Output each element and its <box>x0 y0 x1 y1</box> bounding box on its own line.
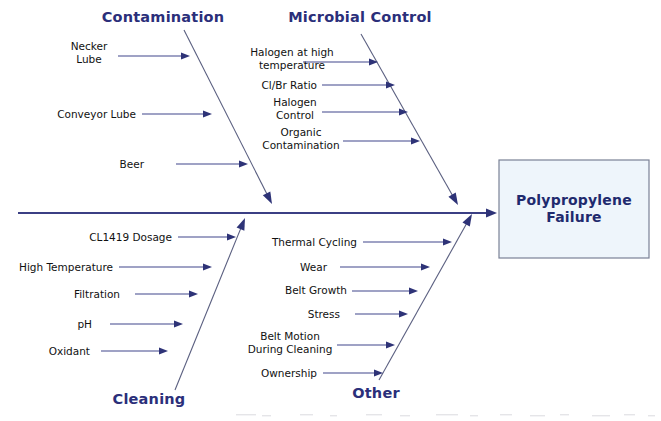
cause-label-line: Filtration <box>74 288 120 300</box>
cause-label-line: pH <box>77 318 92 330</box>
cause-label: High Temperature <box>19 261 113 273</box>
scan-artifact <box>236 414 256 415</box>
scan-artifact <box>500 414 512 415</box>
category-label-other: Other <box>352 385 400 401</box>
cause-label: Stress <box>308 308 340 320</box>
cause-label: Oxidant <box>49 345 90 357</box>
cause-label-line: Belt Motion <box>260 330 320 342</box>
cause-label-line: Ownership <box>261 367 317 379</box>
cause-label-line: Wear <box>300 261 328 273</box>
scan-artifact <box>648 415 655 416</box>
cause-label: Thermal Cycling <box>271 236 357 248</box>
scan-artifact <box>400 415 410 416</box>
cause-label: Halogen at hightemperature <box>250 46 334 71</box>
cause-label-line: Cl/Br Ratio <box>261 79 317 91</box>
cause-label-line: Conveyor Lube <box>57 108 136 120</box>
cause-label-line: Oxidant <box>49 345 90 357</box>
scan-artifact <box>530 415 545 416</box>
scan-artifact <box>592 415 610 416</box>
scan-artifact <box>300 414 313 415</box>
scan-artifact <box>330 415 337 416</box>
effect-label-line: Failure <box>546 209 602 225</box>
cause-label: Cl/Br Ratio <box>261 79 317 91</box>
scan-artifact <box>436 414 458 415</box>
fishbone-diagram: NeckerLubeConveyor LubeBeerHalogen at hi… <box>0 0 661 421</box>
cause-label-line: Contamination <box>262 139 339 151</box>
effect-label-line: Polypropylene <box>516 192 632 208</box>
category-label-contamination: Contamination <box>102 9 225 25</box>
cause-label-line: Necker <box>71 40 108 52</box>
cause-label: Conveyor Lube <box>57 108 136 120</box>
cause-label-line: Control <box>276 109 314 121</box>
cause-label-line: Lube <box>76 53 101 65</box>
cause-label: pH <box>77 318 92 330</box>
category-label-microbial-control: Microbial Control <box>288 9 432 25</box>
scan-artifact <box>262 415 271 416</box>
scan-artifact <box>366 414 382 415</box>
scan-artifact <box>624 414 635 415</box>
scan-artifact <box>470 415 478 416</box>
category-label-cleaning: Cleaning <box>113 391 186 407</box>
cause-label: Belt Growth <box>285 284 347 296</box>
cause-label-line: Halogen <box>273 96 316 108</box>
cause-label: Filtration <box>74 288 120 300</box>
cause-label: CL1419 Dosage <box>89 231 172 243</box>
fishbone-canvas: NeckerLubeConveyor LubeBeerHalogen at hi… <box>0 0 661 421</box>
cause-label-line: Halogen at high <box>250 46 334 58</box>
cause-label-line: CL1419 Dosage <box>89 231 172 243</box>
cause-label: Beer <box>120 158 145 170</box>
cause-label-line: High Temperature <box>19 261 113 273</box>
effect-box-layer: PolypropyleneFailure <box>499 160 649 258</box>
cause-label: Wear <box>300 261 328 273</box>
cause-label: HalogenControl <box>273 96 316 121</box>
cause-label-line: temperature <box>259 59 325 71</box>
cause-label-line: Thermal Cycling <box>271 236 357 248</box>
cause-label: Ownership <box>261 367 317 379</box>
cause-label-line: Beer <box>120 158 145 170</box>
scan-artifact <box>560 414 569 415</box>
cause-label-line: Belt Growth <box>285 284 347 296</box>
cause-label-line: Stress <box>308 308 340 320</box>
cause-label-line: Organic <box>281 126 322 138</box>
cause-label-line: During Cleaning <box>248 343 333 355</box>
cause-label: Belt MotionDuring Cleaning <box>248 330 333 355</box>
